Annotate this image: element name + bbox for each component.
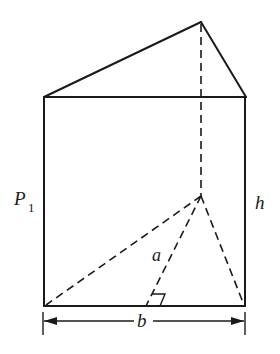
- bottom-right-hidden-edge: [201, 196, 244, 305]
- label-altitude: a: [152, 245, 161, 265]
- label-height: h: [255, 192, 265, 213]
- arrowhead-right-icon: [231, 317, 244, 325]
- bottom-left-hidden-edge: [46, 196, 201, 305]
- label-base-side: b: [137, 310, 147, 331]
- top-right-slant-edge: [201, 22, 246, 97]
- hidden-edges: [46, 24, 244, 306]
- right-angle-marker: [152, 294, 165, 306]
- arrowhead-left-icon: [44, 317, 57, 325]
- top-left-slant-edge: [44, 22, 201, 97]
- label-lateral-face-subscript: 1: [28, 200, 35, 215]
- visible-edges: [44, 22, 246, 306]
- triangular-prism-diagram: P 1 h a b: [0, 0, 280, 354]
- label-lateral-face: P: [13, 188, 26, 209]
